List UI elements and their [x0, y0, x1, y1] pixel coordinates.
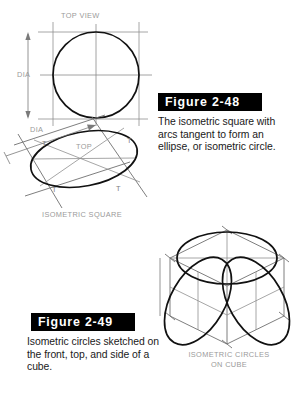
- tangent-mark-top-right: T: [127, 136, 132, 145]
- top-view-dia-label: DIA: [17, 70, 30, 79]
- isometric-cube-caption-line-2: ON CUBE: [174, 360, 284, 369]
- figure-2-48-caption-line-2: arcs tangent to form an: [158, 129, 304, 142]
- figure-2-48-caption-line-1: The isometric square with: [158, 116, 304, 129]
- tangent-mark-bottom-right: T: [116, 184, 121, 193]
- figure-2-49-caption-line-1: Isometric circles sketched on: [27, 336, 179, 349]
- tangent-mark-top-left: T: [42, 139, 47, 148]
- isometric-square-face-label: TOP: [76, 142, 92, 151]
- isometric-square-caption: ISOMETRIC SQUARE: [42, 210, 122, 219]
- top-view-centerlines: [40, 24, 152, 126]
- isometric-square-svg: [0, 112, 172, 222]
- top-view-square: [38, 22, 148, 126]
- figure-2-49-caption-line-2: the front, top, and side of a: [27, 349, 179, 362]
- tangent-mark-bottom-left: T: [52, 185, 57, 194]
- figure-2-49-caption-line-3: cube.: [27, 361, 179, 374]
- cube-construction-lines: [170, 230, 284, 330]
- figure-2-48-caption-line-3: ellipse, or isometric circle.: [158, 141, 304, 154]
- isometric-cube-caption-line-1: ISOMETRIC CIRCLES: [174, 350, 284, 359]
- isometric-square-diagonals: [31, 128, 140, 186]
- figure-2-48-caption: The isometric square with arcs tangent t…: [158, 116, 304, 154]
- isometric-square-drawing: DIA T T T T TOP ISOMETRIC SQUARE: [0, 112, 172, 222]
- figure-2-48-banner: Figure 2-48: [158, 93, 262, 111]
- isometric-square-dia-label: DIA: [30, 125, 43, 134]
- top-view-title: TOP VIEW: [61, 11, 100, 20]
- figure-2-49-label: Figure 2-49: [38, 316, 113, 328]
- figure-2-49-banner: Figure 2-49: [31, 313, 135, 331]
- figure-2-48-label: Figure 2-48: [165, 96, 240, 108]
- top-view-drawing: TOP VIEW DIA: [0, 0, 160, 130]
- figure-2-49-caption: Isometric circles sketched on the front,…: [27, 336, 179, 374]
- figure-page: TOP VIEW DIA: [0, 0, 307, 409]
